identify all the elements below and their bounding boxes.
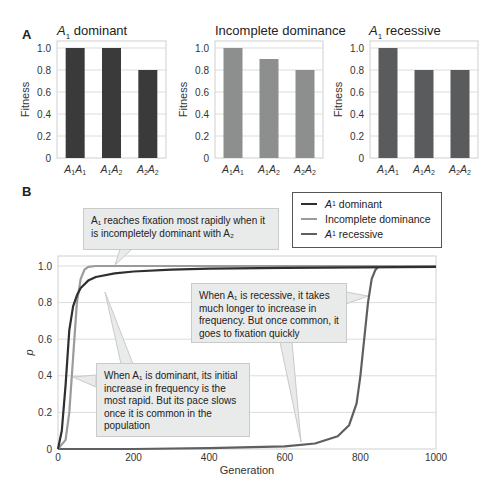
x-tick-label: 200 [125,452,142,463]
legend-label: dominant [336,198,382,210]
x-tick-label: 1000 [425,452,448,463]
x-tick-label: 600 [276,452,293,463]
callout-dominant: When A₁ is dominant, its initial increas… [96,363,250,437]
legend-italic: A [325,198,332,210]
x-tick-label: 0 [55,452,61,463]
y-tick-label: 0 [46,444,52,455]
y-tick-label: 1.0 [38,261,52,272]
callout-recessive: When A₁ is recessive, it takes much long… [191,283,347,343]
legend-swatch [301,218,317,220]
legend-item-recessive: A1 recessive [301,226,433,241]
legend-swatch [301,233,317,235]
legend-label: Incomplete dominance [325,213,431,225]
y-tick-label: 0.6 [38,334,52,345]
x-tick-label: 800 [352,452,369,463]
y-axis-label: p [23,349,35,356]
y-tick-label: 0.8 [38,297,52,308]
legend-item-dominant: A1 dominant [301,196,433,211]
x-axis-label: Generation [220,464,274,476]
callout-incomplete-dominance: A₁ reaches fixation most rapidly when it… [83,208,279,250]
x-tick-label: 400 [201,452,218,463]
legend-item-incomplete: Incomplete dominance [301,211,433,226]
legend-italic: A [325,228,332,240]
y-tick-label: 0.4 [38,370,52,381]
legend-label: recessive [336,228,383,240]
legend: A1 dominant Incomplete dominance A1 rece… [292,192,442,248]
y-tick-label: 0.2 [38,407,52,418]
legend-swatch [301,203,317,205]
